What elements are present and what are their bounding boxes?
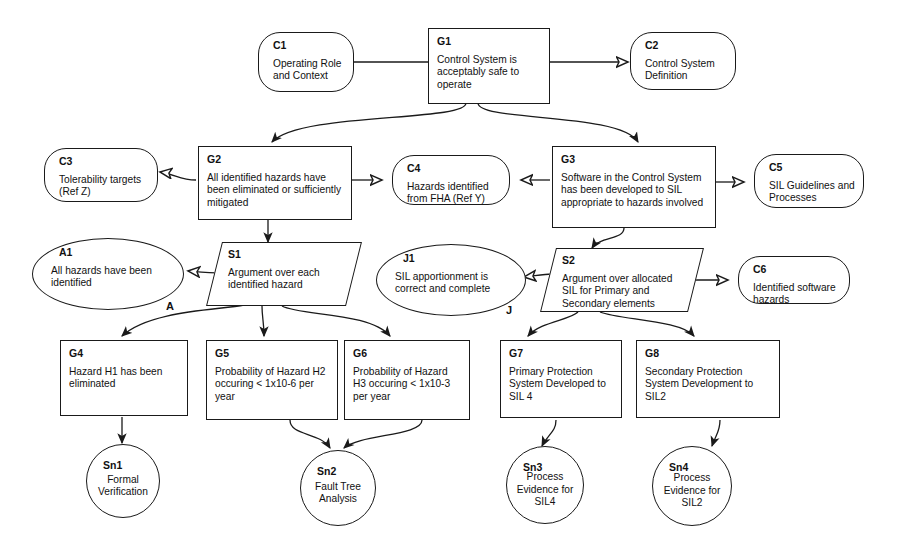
node-g3-software-developed-to-sil[interactable]: G3 Software in the Control System has be…	[552, 146, 716, 228]
node-id: S1	[228, 248, 344, 260]
node-text: Identified software hazards	[753, 282, 842, 307]
node-c3-tolerability-targets[interactable]: C3 Tolerability targets (Ref Z)	[44, 148, 158, 202]
node-text: Process Evidence for SIL2	[653, 472, 731, 509]
node-s2-argument-over-allocated-sil[interactable]: S2 Argument over allocated SIL for Prima…	[548, 248, 696, 312]
node-id: G3	[561, 153, 708, 165]
node-id: G6	[353, 347, 462, 359]
node-id: G8	[645, 347, 772, 359]
node-a1-all-hazards-identified[interactable]: A1 All hazards have been identified	[32, 238, 184, 310]
node-j1-sil-apportionment[interactable]: J1 SIL apportionment is correct and comp…	[376, 244, 526, 316]
node-g2-hazards-eliminated-mitigated[interactable]: G2 All identified hazards have been elim…	[198, 146, 352, 220]
node-id: C1	[273, 39, 346, 51]
node-text: Tolerability targets (Ref Z)	[59, 174, 150, 199]
node-id: C5	[769, 161, 856, 173]
node-id: C3	[59, 155, 150, 167]
node-text: Primary Protection System Developed to S…	[509, 366, 614, 403]
node-g7-primary-protection-system[interactable]: G7 Primary Protection System Developed t…	[500, 340, 622, 418]
node-text: Process Evidence for SIL4	[507, 471, 583, 508]
node-id: G7	[509, 347, 614, 359]
node-id: A1	[59, 246, 72, 258]
node-s1-argument-over-each-hazard[interactable]: S1 Argument over each identified hazard	[214, 242, 354, 306]
node-sn1-formal-verification[interactable]: Sn1 Formal Verification	[86, 444, 160, 518]
node-g5-probability-hazard-h2[interactable]: G5 Probability of Hazard H2 occuring < 1…	[206, 340, 338, 420]
justification-marker-j: J	[506, 304, 512, 316]
gsn-diagram-canvas: C1 Operating Role and Context G1 Control…	[0, 0, 897, 559]
node-c4-hazards-identified-fha[interactable]: C4 Hazards identified from FHA (Ref Y)	[392, 155, 510, 205]
node-id: G1	[437, 35, 542, 47]
node-text: Probability of Hazard H3 occuring < 1x10…	[353, 366, 462, 403]
node-text: Operating Role and Context	[273, 58, 346, 83]
node-text: Software in the Control System has been …	[561, 172, 708, 209]
node-text: All identified hazards have been elimina…	[207, 172, 344, 209]
node-text: Hazard H1 has been eliminated	[69, 366, 180, 391]
node-g6-probability-hazard-h3[interactable]: G6 Probability of Hazard H3 occuring < 1…	[344, 340, 470, 420]
node-id: G4	[69, 347, 180, 359]
node-id: S2	[562, 254, 686, 266]
node-id: G2	[207, 153, 344, 165]
node-c1-operating-role-and-context[interactable]: C1 Operating Role and Context	[258, 32, 354, 92]
node-sn3-process-evidence-sil4[interactable]: Sn3 Process Evidence for SIL4	[506, 446, 584, 524]
node-sn4-process-evidence-sil2[interactable]: Sn4 Process Evidence for SIL2	[652, 446, 732, 526]
node-c5-sil-guidelines-and-processes[interactable]: C5 SIL Guidelines and Processes	[754, 154, 864, 208]
node-g1-control-system-safe[interactable]: G1 Control System is acceptably safe to …	[428, 28, 550, 104]
node-text: Formal Verification	[87, 474, 159, 499]
node-id: J1	[403, 252, 415, 264]
node-g8-secondary-protection-system[interactable]: G8 Secondary Protection System Developme…	[636, 340, 780, 418]
node-text: Argument over allocated SIL for Primary …	[562, 273, 686, 310]
node-id: G5	[215, 347, 330, 359]
node-text: SIL Guidelines and Processes	[769, 180, 856, 205]
node-text: Secondary Protection System Development …	[645, 366, 772, 403]
node-sn2-fault-tree-analysis[interactable]: Sn2 Fault Tree Analysis	[300, 450, 376, 526]
node-text: Fault Tree Analysis	[301, 481, 375, 506]
node-id: Sn4	[669, 461, 688, 473]
node-text: Probability of Hazard H2 occuring < 1x10…	[215, 366, 330, 403]
node-c6-identified-software-hazards[interactable]: C6 Identified software hazards	[738, 256, 850, 304]
node-id: C6	[753, 263, 842, 275]
node-g4-hazard-h1-eliminated[interactable]: G4 Hazard H1 has been eliminated	[60, 340, 188, 416]
node-c2-control-system-definition[interactable]: C2 Control System Definition	[630, 32, 736, 90]
node-text: All hazards have been identified	[33, 265, 183, 290]
node-text: Control System is acceptably safe to ope…	[437, 54, 542, 91]
node-id: Sn2	[317, 465, 336, 477]
node-id: C2	[645, 39, 728, 51]
node-text: Hazards identified from FHA (Ref Y)	[407, 181, 502, 206]
node-text: Argument over each identified hazard	[228, 267, 344, 292]
assumption-marker-a: A	[166, 300, 174, 312]
node-id: Sn1	[103, 459, 122, 471]
node-text: Control System Definition	[645, 58, 728, 83]
node-id: Sn3	[523, 461, 542, 473]
node-text: SIL apportionment is correct and complet…	[377, 271, 525, 296]
node-id: C4	[407, 162, 502, 174]
